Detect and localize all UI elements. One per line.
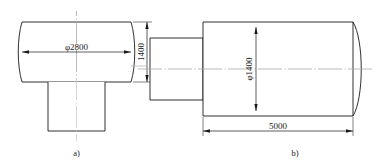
- figure-a-caption: a): [73, 148, 80, 158]
- figure-b-length-label: 5000: [269, 121, 288, 131]
- technical-drawing-canvas: φ2800 1400 φ1400 5000 a) b): [0, 0, 383, 164]
- drawing-surface: φ2800 1400 φ1400 5000 a) b): [0, 0, 383, 164]
- figure-a-group: [18, 11, 152, 141]
- figure-a-height-label: 1400: [136, 43, 146, 62]
- figure-b-group: [138, 22, 372, 136]
- figure-b-diameter-label: φ1400: [244, 57, 254, 81]
- figure-b-caption: b): [291, 148, 298, 158]
- figure-a-diameter-label: φ2800: [65, 42, 89, 52]
